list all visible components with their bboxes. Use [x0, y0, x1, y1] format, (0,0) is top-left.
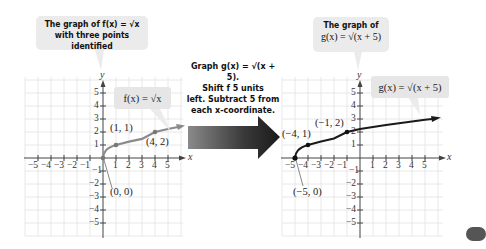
left-callout: The graph of f(x) = √x with three points… — [36, 16, 148, 50]
right-callout: The graph of g(x) = √(x + 5) — [313, 17, 389, 52]
label-point-neg4-1: (−4, 1) — [282, 128, 311, 139]
tick: 5 — [422, 160, 427, 170]
tick: −3 — [346, 191, 356, 201]
tick: 3 — [94, 113, 99, 123]
tick: −3 — [311, 160, 321, 170]
left-x-axis-label: x — [188, 151, 192, 162]
tick: 1 — [94, 139, 99, 149]
tick: 1 — [113, 160, 118, 170]
tick: −4 — [298, 160, 308, 170]
tick: 1 — [370, 160, 375, 170]
tick: −1 — [349, 165, 359, 175]
label-point-neg1-2: (−1, 2) — [315, 117, 344, 128]
tick: −4 — [346, 204, 356, 214]
f-function-label-text: f(x) = √x — [124, 93, 162, 104]
tick: 2 — [383, 160, 388, 170]
right-callout-line1: The graph of — [317, 20, 385, 31]
left-callout-line1: The graph of f(x) = √x — [40, 19, 144, 30]
point-4-2 — [153, 130, 158, 135]
tick: 5 — [165, 160, 170, 170]
tick: 2 — [94, 126, 99, 136]
point-1-1 — [114, 143, 119, 148]
tick: 5 — [351, 87, 356, 97]
tick: −1 — [92, 165, 102, 175]
left-x-arrowhead — [179, 156, 186, 161]
point-neg1-2 — [345, 130, 350, 135]
g-function-label: g(x) = √(x + 5) — [371, 76, 449, 98]
right-y-arrowhead — [358, 80, 363, 87]
right-y-axis-label: y — [357, 69, 361, 80]
tick: −2 — [346, 178, 356, 188]
tick: −1 — [337, 160, 347, 170]
shift-instructions: Graph g(x) = √(x + 5). Shift f 5 units l… — [186, 61, 280, 116]
tick: −2 — [67, 160, 77, 170]
left-callout-tail — [95, 50, 104, 70]
g-function-label-text: g(x) = √(x + 5) — [378, 82, 441, 93]
tick: −5 — [285, 160, 295, 170]
note-line2: Shift f 5 units — [186, 83, 280, 94]
tick: 4 — [409, 160, 414, 170]
note-line3: left. Subtract 5 from — [186, 94, 280, 105]
tick: 5 — [94, 87, 99, 97]
left-callout-line2: with three points identified — [40, 30, 144, 52]
tick: 1 — [351, 139, 356, 149]
right-x-axis-label: x — [447, 151, 451, 162]
tick: −5 — [89, 217, 99, 227]
page-tab-shape — [466, 227, 486, 241]
tick: 2 — [351, 126, 356, 136]
tick: 3 — [351, 113, 356, 123]
tick: −4 — [89, 204, 99, 214]
left-y-arrowhead — [101, 80, 106, 87]
note-line1: Graph g(x) = √(x + 5). — [186, 61, 280, 83]
f-function-label: f(x) = √x — [114, 87, 171, 109]
right-grid — [282, 77, 443, 236]
tick: −5 — [346, 217, 356, 227]
tick: −3 — [54, 160, 64, 170]
tick: −1 — [80, 160, 90, 170]
left-y-axis-label: y — [100, 69, 104, 80]
tick: 4 — [351, 100, 356, 110]
point-neg4-1 — [306, 143, 311, 148]
tick: 4 — [152, 160, 157, 170]
right-callout-tail — [354, 52, 362, 70]
note-line4: each x-coordinate. — [186, 105, 280, 116]
tick: 4 — [94, 100, 99, 110]
tick: 3 — [139, 160, 144, 170]
tick: 2 — [126, 160, 131, 170]
tick: −3 — [89, 191, 99, 201]
tick: −2 — [324, 160, 334, 170]
tick: −4 — [41, 160, 51, 170]
shift-arrow-icon — [188, 116, 280, 159]
right-x-arrowhead — [439, 156, 446, 161]
right-callout-line2: g(x) = √(x + 5) — [317, 31, 385, 42]
label-point-0-0: (0, 0) — [110, 186, 133, 197]
label-point-4-2: (4, 2) — [146, 136, 169, 147]
tick: −2 — [89, 178, 99, 188]
f-curve-arrowhead — [176, 124, 185, 130]
label-point-neg5-0: (−5, 0) — [293, 186, 322, 197]
tick: 3 — [396, 160, 401, 170]
point-0-0 — [101, 156, 106, 161]
tick: −5 — [28, 160, 38, 170]
label-point-1-1: (1, 1) — [110, 122, 133, 133]
